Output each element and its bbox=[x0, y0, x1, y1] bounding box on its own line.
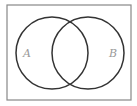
set-b-label: B bbox=[108, 47, 117, 60]
set-a-label: A bbox=[22, 47, 31, 60]
venn-diagram: A B bbox=[0, 0, 137, 106]
